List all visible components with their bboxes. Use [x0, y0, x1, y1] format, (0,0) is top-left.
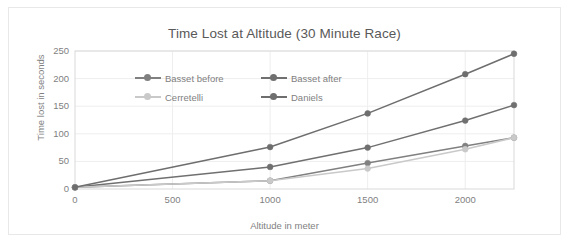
data-point [267, 178, 273, 184]
data-point [267, 144, 273, 150]
legend-swatch-icon [261, 92, 287, 102]
data-point [267, 164, 273, 170]
data-point [72, 184, 78, 190]
legend-entry-daniels[interactable]: Daniels [261, 89, 323, 105]
legend-entry-basset-before[interactable]: Basset before [135, 70, 224, 86]
data-point [462, 118, 468, 124]
legend-label: Daniels [291, 92, 323, 103]
data-point [365, 160, 371, 166]
legend-swatch-icon [135, 73, 161, 83]
data-point [462, 146, 468, 152]
data-point [365, 110, 371, 116]
chart-legend: Basset beforeBasset afterCerretelliDanie… [135, 70, 385, 110]
data-point [365, 166, 371, 172]
data-point [365, 145, 371, 151]
data-point [462, 71, 468, 77]
chart-frame: Time Lost at Altitude (30 Minute Race) T… [8, 7, 561, 235]
data-point [511, 102, 517, 108]
data-point [511, 51, 517, 57]
legend-entry-cerretelli[interactable]: Cerretelli [135, 89, 203, 105]
legend-label: Basset before [165, 73, 224, 84]
data-point [511, 135, 517, 141]
plot-area [9, 8, 562, 236]
legend-label: Cerretelli [165, 92, 203, 103]
legend-swatch-icon [261, 73, 287, 83]
legend-entry-basset-after[interactable]: Basset after [261, 70, 342, 86]
legend-label: Basset after [291, 73, 342, 84]
legend-swatch-icon [135, 92, 161, 102]
